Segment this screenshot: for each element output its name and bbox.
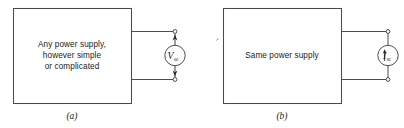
panel-b-caption: (b): [276, 111, 287, 122]
panel-a-top-terminal: [173, 30, 177, 34]
voltage-source-subscript: oc: [174, 56, 180, 62]
panel-a-box-text-line-2: however simple: [43, 51, 102, 60]
panel-b-bottom-terminal: [386, 78, 390, 82]
panel-b-edge-tick: [217, 39, 219, 41]
panel-a: Any power supply, however simple or comp…: [14, 9, 186, 123]
panel-a-box-text-line-3: or complicated: [45, 62, 100, 71]
panel-b-top-terminal: [386, 30, 390, 34]
panel-a-box-text-line-1: Any power supply,: [38, 40, 106, 49]
panel-b: Same power supply Isc (b): [217, 9, 399, 123]
figure-root: Any power supply, however simple or comp…: [0, 0, 404, 128]
panel-a-caption: (a): [66, 111, 77, 122]
current-source-subscript: sc: [387, 56, 392, 62]
voltage-source-label: Voc: [167, 50, 179, 62]
panel-a-bottom-terminal: [173, 78, 177, 82]
current-source-label: Isc: [382, 50, 392, 62]
panel-b-box-text-line-1: Same power supply: [245, 51, 319, 60]
